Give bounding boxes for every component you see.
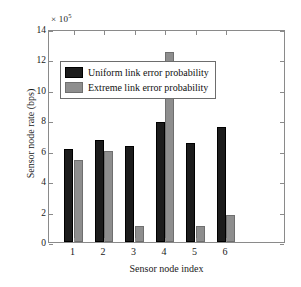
x-axis-tick — [74, 238, 75, 242]
y-axis-tick — [49, 214, 53, 215]
legend-item-extreme[interactable]: Extreme link error probability — [65, 80, 209, 95]
x-axis-tick-label: 1 — [61, 246, 85, 257]
x-axis-tick-label: 5 — [183, 246, 207, 257]
legend-item-uniform[interactable]: Uniform link error probability — [65, 65, 209, 80]
y-axis-tick — [49, 31, 53, 32]
bar — [186, 143, 195, 242]
black-swatch-icon — [65, 67, 83, 78]
bar — [156, 122, 165, 242]
y-axis-multiplier-exponent: 5 — [68, 12, 71, 19]
y-axis-tick — [280, 183, 284, 184]
x-axis-tick — [196, 238, 197, 242]
bar — [135, 226, 144, 242]
legend-item-label: Extreme link error probability — [88, 83, 208, 93]
x-axis-tick — [226, 31, 227, 35]
bar — [217, 127, 226, 242]
x-axis-tick — [165, 238, 166, 242]
x-axis-tick — [135, 31, 136, 35]
bar — [64, 149, 73, 242]
legend-item-label: Uniform link error probability — [88, 68, 209, 78]
y-axis-tick — [49, 244, 53, 245]
y-axis-tick — [280, 214, 284, 215]
x-axis-tick-label: 2 — [91, 246, 115, 257]
x-axis-tick — [74, 31, 75, 35]
chart-legend: Uniform link error probability Extreme l… — [60, 61, 216, 99]
x-axis-tick — [196, 31, 197, 35]
x-axis-tick — [226, 238, 227, 242]
x-axis-tick — [135, 238, 136, 242]
y-axis-tick — [49, 92, 53, 93]
x-axis-tick — [165, 31, 166, 35]
bar-chart-figure: × 105 02468101214 123456 Sensor node ind… — [0, 0, 301, 287]
x-axis-title: Sensor node index — [48, 263, 285, 274]
x-axis-tick-label: 3 — [122, 246, 146, 257]
y-axis-multiplier-base: × 10 — [51, 14, 68, 24]
x-axis-tick-label: 6 — [213, 246, 237, 257]
x-axis-tick — [104, 238, 105, 242]
y-axis-tick — [280, 31, 284, 32]
bar — [196, 226, 205, 242]
bar — [125, 146, 134, 242]
y-axis-tick-label: 14 — [20, 25, 46, 35]
y-axis-tick — [49, 122, 53, 123]
y-axis-tick — [280, 122, 284, 123]
y-axis-tick — [280, 61, 284, 62]
x-axis-tick — [104, 31, 105, 35]
bar — [95, 140, 104, 242]
y-axis-tick — [280, 244, 284, 245]
y-axis-tick — [280, 92, 284, 93]
y-axis-tick-label: 0 — [20, 238, 46, 248]
y-axis-tick — [49, 153, 53, 154]
y-axis-multiplier: × 105 — [51, 12, 72, 24]
bar — [74, 160, 83, 242]
bar — [226, 215, 235, 242]
y-axis-tick — [49, 183, 53, 184]
bar — [104, 151, 113, 242]
x-axis-tick-label: 4 — [152, 246, 176, 257]
gray-swatch-icon — [65, 82, 83, 93]
y-axis-tick — [280, 153, 284, 154]
y-axis-title: Sensor node rate (bps) — [25, 44, 36, 224]
y-axis-tick — [49, 61, 53, 62]
